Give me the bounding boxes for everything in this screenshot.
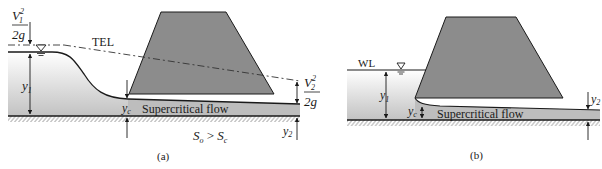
sluice-gate-a [129,12,274,94]
caption-a: (a) [157,150,170,163]
panel-a: V21 2g TEL y1 yc Supercritical flow V22 … [8,7,320,163]
y2-label-b: y2 [590,92,600,107]
supercritical-flow-label-a: Supercritical flow [142,102,229,116]
sluice-gate-b [415,17,563,98]
y2-label-a: y2 [282,124,292,139]
slope-condition-label: So > Sc [193,128,228,145]
panel-b: WL y1 yc Supercritical flow y2 (b) [347,17,600,162]
water-level-symbol-b [397,63,405,74]
tel-label: TEL [92,35,114,49]
v2-label: V22 [304,74,316,92]
supercritical-flow-label-b: Supercritical flow [437,107,524,121]
sluice-gate-diagram: V21 2g TEL y1 yc Supercritical flow V22 … [0,0,602,169]
v1-label: V21 [12,7,24,25]
v1-denominator: 2g [12,27,26,42]
wl-label: WL [358,57,375,69]
caption-b: (b) [470,149,483,162]
v2-denominator: 2g [304,94,318,109]
channel-bed-hatch-a [8,116,300,122]
